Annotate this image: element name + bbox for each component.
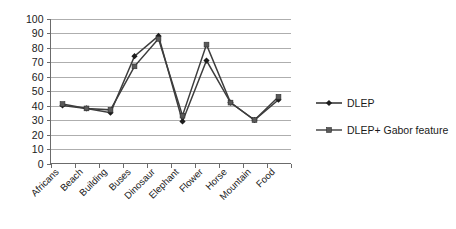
chart-canvas: 0102030405060708090100 AfricansBeachBuil… xyxy=(0,0,456,229)
y-tick-label: 60 xyxy=(32,71,44,83)
data-point-marker xyxy=(180,113,185,118)
y-tick-label: 40 xyxy=(32,100,44,112)
y-tick-label: 50 xyxy=(32,85,44,97)
legend-label: DLEP+ Gabor feature xyxy=(347,124,448,136)
data-point-marker xyxy=(156,36,161,41)
data-point-marker xyxy=(108,107,113,112)
y-tick-label: 0 xyxy=(38,158,44,170)
legend-marker xyxy=(327,128,332,133)
data-point-marker xyxy=(204,42,209,47)
data-point-marker xyxy=(132,64,137,69)
y-tick-label: 80 xyxy=(32,42,44,54)
y-tick-label: 70 xyxy=(32,56,44,68)
y-tick-label: 90 xyxy=(32,27,44,39)
y-tick-label: 30 xyxy=(32,114,44,126)
y-tick-label: 100 xyxy=(26,13,44,25)
chart-screenshot: 0102030405060708090100 AfricansBeachBuil… xyxy=(0,0,456,229)
legend-label: DLEP xyxy=(347,97,374,109)
y-tick-label: 10 xyxy=(32,143,44,155)
data-point-marker xyxy=(276,94,281,99)
line-chart-figure: 0102030405060708090100 AfricansBeachBuil… xyxy=(0,0,456,229)
data-point-marker xyxy=(60,102,65,107)
y-tick-label: 20 xyxy=(32,129,44,141)
data-point-marker xyxy=(252,118,257,123)
data-point-marker xyxy=(84,106,89,111)
data-point-marker xyxy=(228,100,233,105)
